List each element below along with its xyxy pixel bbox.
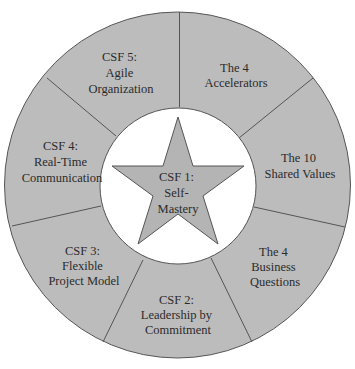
csf-wheel-diagram: CSF 1: Self- Mastery CSF 5: Agile Organi… xyxy=(0,0,355,369)
